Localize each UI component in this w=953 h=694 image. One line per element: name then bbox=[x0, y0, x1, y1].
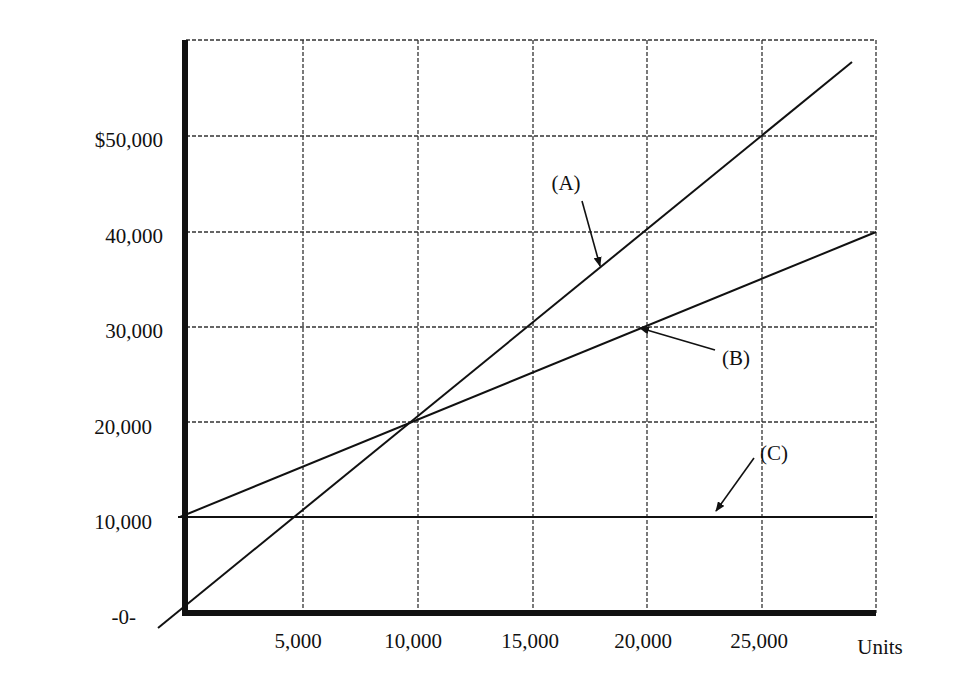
chart: $50,000 40,000 30,000 20,000 10,000 -0- … bbox=[0, 0, 953, 694]
x-tick-10000: 10,000 bbox=[384, 629, 442, 653]
series-b-line bbox=[180, 232, 876, 517]
series-a-line bbox=[158, 62, 852, 628]
x-tick-25000: 25,000 bbox=[730, 629, 788, 653]
x-tick-5000: 5,000 bbox=[274, 629, 321, 653]
x-tick-labels: 5,000 10,000 15,000 20,000 25,000 Units bbox=[274, 629, 902, 659]
callout-a-arrow-icon bbox=[582, 201, 600, 266]
y-tick-10000: 10,000 bbox=[94, 510, 152, 534]
callout-c: (C) bbox=[716, 441, 788, 511]
horizontal-gridlines bbox=[186, 40, 876, 422]
y-tick-50000: $50,000 bbox=[95, 128, 163, 152]
y-tick-40000: 40,000 bbox=[105, 224, 163, 248]
x-tick-20000: 20,000 bbox=[614, 629, 672, 653]
callout-a: (A) bbox=[551, 171, 600, 266]
callout-b: (B) bbox=[640, 328, 750, 370]
callout-c-label: (C) bbox=[760, 441, 788, 465]
y-tick-30000: 30,000 bbox=[105, 319, 163, 343]
y-tick-20000: 20,000 bbox=[94, 415, 152, 439]
x-tick-15000: 15,000 bbox=[501, 629, 559, 653]
callout-a-label: (A) bbox=[551, 171, 580, 195]
callout-b-label: (B) bbox=[722, 346, 750, 370]
callout-b-arrow-icon bbox=[640, 328, 715, 350]
y-tick-0: -0- bbox=[112, 605, 137, 629]
x-axis-unit-label: Units bbox=[857, 635, 903, 659]
callout-c-arrow-icon bbox=[716, 458, 754, 511]
y-tick-labels: $50,000 40,000 30,000 20,000 10,000 -0- bbox=[94, 128, 163, 629]
